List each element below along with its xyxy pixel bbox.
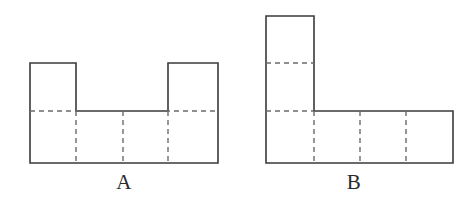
geometry-figure-canvas	[0, 0, 472, 208]
figure-a-label: A	[104, 172, 144, 193]
figure-b-label: B	[334, 172, 374, 193]
